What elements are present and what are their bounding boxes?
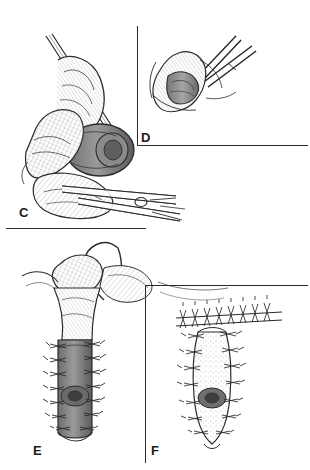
illustration-artwork xyxy=(0,0,310,470)
horizontal-divider-lower xyxy=(145,285,308,286)
horizontal-divider-middle xyxy=(6,228,146,229)
panel-d-artwork xyxy=(150,36,256,112)
panel-label-c: C xyxy=(19,205,29,220)
panel-e-artwork xyxy=(22,243,152,441)
vertical-divider-upper xyxy=(137,26,138,146)
panel-label-f: F xyxy=(151,443,159,458)
horizontal-divider-upper xyxy=(137,145,308,146)
figure-plate: C D E F xyxy=(0,0,310,470)
panel-f-artwork xyxy=(158,282,282,449)
panel-c-artwork xyxy=(22,34,185,221)
vertical-divider-lower xyxy=(145,285,146,463)
panel-label-e: E xyxy=(33,443,42,458)
panel-label-d: D xyxy=(141,130,151,145)
